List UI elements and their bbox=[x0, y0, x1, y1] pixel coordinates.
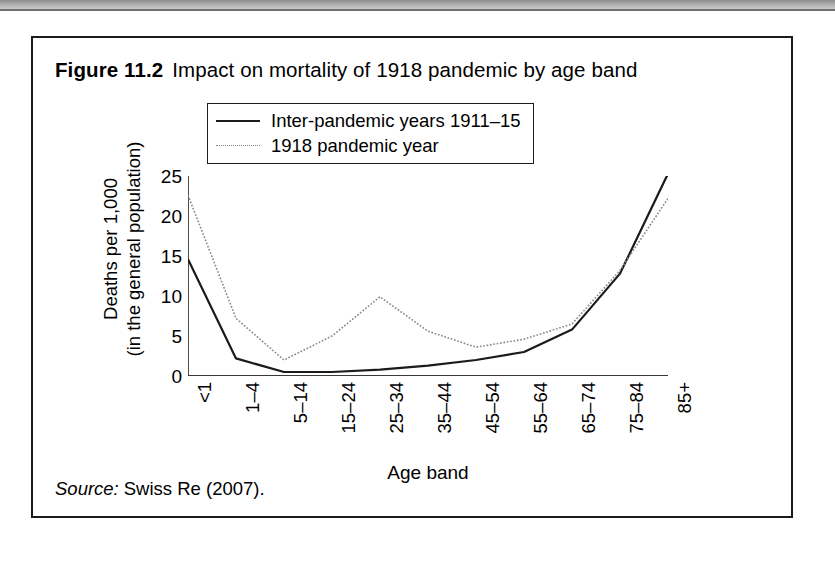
y-tick-label: 10 bbox=[161, 287, 182, 306]
x-axis-tick-labels: <11–45–1415–2425–3435–4445–5455–6465–747… bbox=[188, 382, 668, 462]
legend-item-pandemic-year: 1918 pandemic year bbox=[216, 133, 521, 158]
plot-area bbox=[188, 176, 668, 376]
y-tick-label: 5 bbox=[171, 327, 182, 346]
source-note: Source:Swiss Re (2007). bbox=[55, 478, 265, 500]
legend-label-inter-pandemic: Inter-pandemic years 1911–15 bbox=[271, 110, 521, 132]
chart-legend: Inter-pandemic years 1911–15 1918 pandem… bbox=[207, 103, 534, 164]
figure-container: Figure 11.2Impact on mortality of 1918 p… bbox=[31, 36, 793, 518]
x-tick-label: 25–34 bbox=[387, 382, 406, 433]
y-tick-label: 0 bbox=[171, 367, 182, 386]
plot-svg bbox=[188, 176, 668, 376]
x-tick-label: 15–24 bbox=[339, 382, 358, 433]
legend-line-solid-icon bbox=[216, 116, 260, 126]
x-tick-label: 75–84 bbox=[627, 382, 646, 433]
scan-artifact-line bbox=[0, 9, 835, 11]
x-tick-label: 65–74 bbox=[579, 382, 598, 433]
series-line-2 bbox=[188, 195, 668, 360]
scan-artifact-bar bbox=[0, 0, 835, 9]
source-label: Source: bbox=[55, 478, 119, 499]
legend-item-inter-pandemic: Inter-pandemic years 1911–15 bbox=[216, 108, 521, 133]
x-tick-label: 55–64 bbox=[531, 382, 550, 433]
y-axis-title-line1: Deaths per 1,000 bbox=[100, 178, 121, 320]
legend-line-dotted-icon bbox=[216, 141, 260, 151]
series-line-1 bbox=[188, 176, 668, 372]
y-axis-tick-labels: 0510152025 bbox=[138, 166, 182, 386]
y-tick-label: 20 bbox=[161, 207, 182, 226]
x-tick-label: 1–4 bbox=[243, 382, 262, 413]
x-tick-label: 5–14 bbox=[291, 382, 310, 423]
axis-lines bbox=[188, 176, 668, 376]
chart: Inter-pandemic years 1911–15 1918 pandem… bbox=[33, 38, 795, 520]
x-tick-label: 35–44 bbox=[435, 382, 454, 433]
x-tick-label: <1 bbox=[195, 382, 214, 403]
x-tick-label: 45–54 bbox=[483, 382, 502, 433]
legend-label-pandemic-year: 1918 pandemic year bbox=[271, 135, 439, 157]
x-tick-label: 85+ bbox=[675, 382, 694, 413]
y-tick-label: 15 bbox=[161, 247, 182, 266]
y-tick-label: 25 bbox=[161, 167, 182, 186]
source-value: Swiss Re (2007). bbox=[124, 478, 265, 499]
